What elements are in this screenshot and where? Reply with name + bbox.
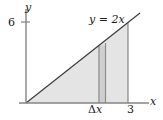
y-axis-label: y	[25, 2, 31, 13]
plot-canvas	[0, 0, 163, 120]
x-tick-label-3: 3	[127, 104, 134, 115]
x-axis-label: x	[150, 96, 156, 107]
delta-symbol: Δ	[88, 103, 96, 116]
delta-variable: x	[96, 103, 102, 116]
y-tick-label-6: 6	[8, 17, 15, 28]
math-figure: y x 6 3 y = 2x Δx	[0, 0, 163, 120]
equation-label: y = 2x	[89, 14, 125, 25]
delta-x-label: Δx	[88, 104, 102, 115]
